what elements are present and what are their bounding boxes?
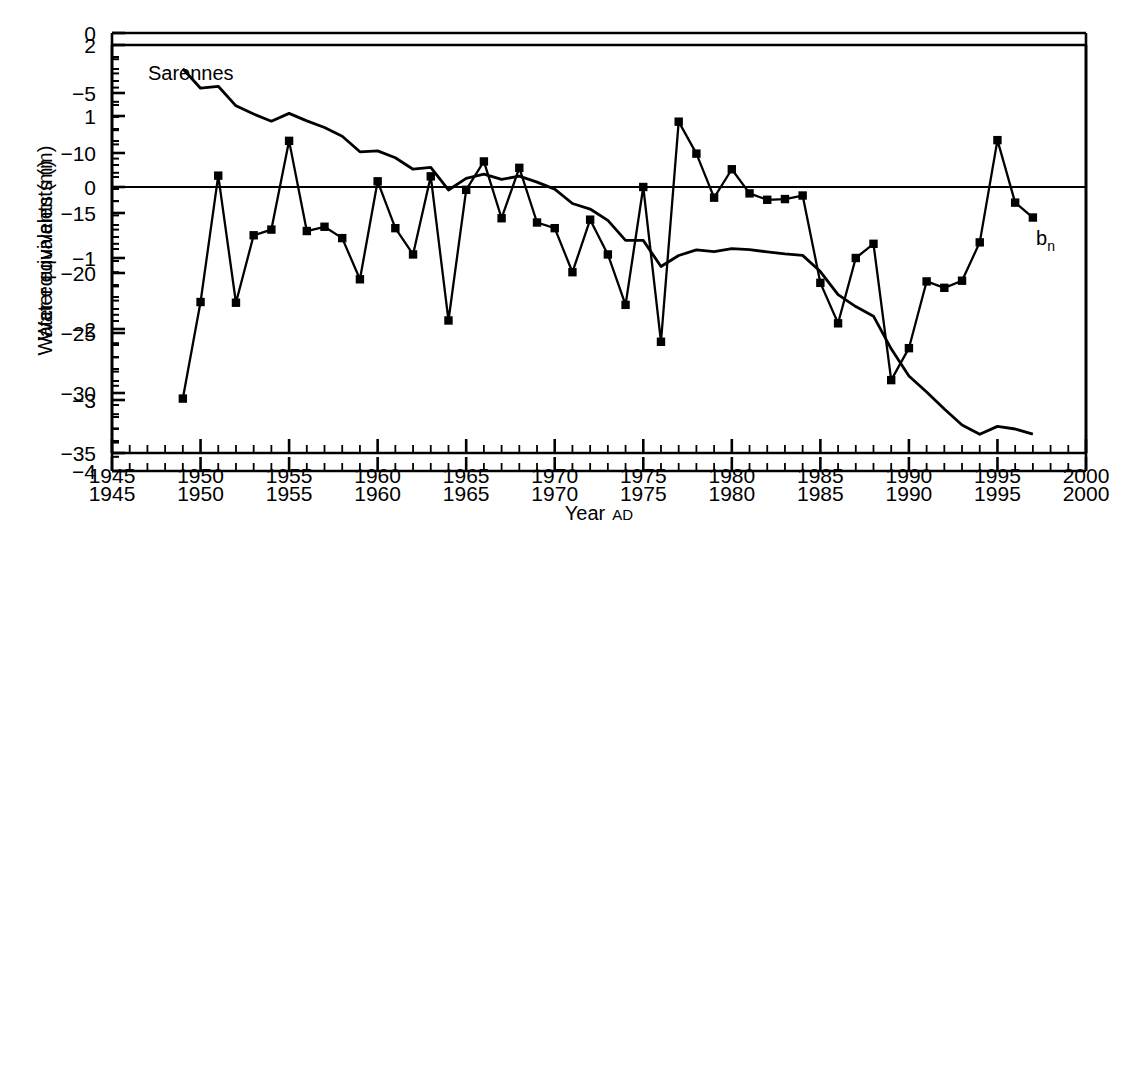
x-axis-title-era: AD (612, 506, 633, 523)
cumulative-mass-balance-panel: 0−5−10−15−20−25−30−35 194519501955196019… (0, 0, 1128, 543)
y-tick-label: −25 (60, 322, 96, 345)
x-tick-label: 1980 (708, 464, 755, 487)
x-tick-label: 1995 (974, 464, 1021, 487)
bottom-x-axis-title: YearAD (565, 502, 633, 524)
x-tick-label: 2000 (1063, 464, 1110, 487)
x-axis-title-word: Year (565, 502, 606, 524)
x-tick-label: 1975 (620, 464, 667, 487)
y-tick-label: −30 (60, 382, 96, 405)
bottom-y-axis-title: Water equivalents (m) (34, 146, 56, 341)
y-tick-label: −20 (60, 262, 96, 285)
x-tick-label: 1945 (89, 464, 136, 487)
y-tick-label: −35 (60, 442, 96, 465)
x-tick-label: 1960 (354, 464, 401, 487)
bottom-y-tick-labels: 0−5−10−15−20−25−30−35 (60, 22, 96, 465)
y-tick-label: 0 (84, 22, 96, 45)
figure-root: 210−1−2−3−4 1945195019551960196519701975… (0, 0, 1128, 1073)
x-tick-label: 1970 (531, 464, 578, 487)
cumulative-mass-balance-plot: 0−5−10−15−20−25−30−35 194519501955196019… (0, 0, 1128, 543)
x-tick-label: 1965 (443, 464, 490, 487)
y-tick-label: −15 (60, 202, 96, 225)
bottom-x-tick-labels: 1945195019551960196519701975198019851990… (89, 464, 1110, 487)
x-tick-label: 1990 (886, 464, 933, 487)
bottom-axes-frame (112, 33, 1086, 453)
x-tick-label: 1985 (797, 464, 844, 487)
bottom-x-ticks (112, 439, 1086, 453)
y-tick-label: −5 (72, 82, 96, 105)
x-tick-label: 1955 (266, 464, 313, 487)
x-tick-label: 1950 (177, 464, 224, 487)
cumulative-balance-line (183, 69, 1033, 435)
y-tick-label: −10 (60, 142, 96, 165)
bottom-y-ticks (112, 33, 125, 453)
